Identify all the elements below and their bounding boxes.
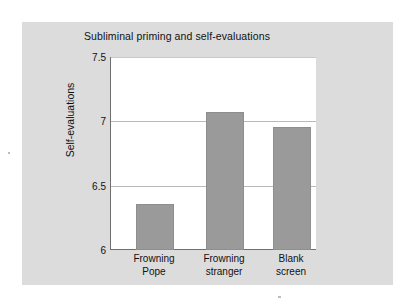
- y-tick-label: 6.5: [92, 180, 106, 191]
- chart-figure: Subliminal priming and self-evaluations …: [22, 22, 393, 285]
- chart-title: Subliminal priming and self-evaluations: [84, 30, 270, 42]
- bar-frowning-stranger: [206, 112, 244, 250]
- bar-blank-screen: [273, 127, 311, 250]
- y-tick-label: 6: [100, 245, 106, 256]
- x-tick-label-blank-screen: Blank screen: [251, 253, 331, 278]
- bar-frowning-pope: [136, 204, 174, 250]
- y-axis-tick-labels: 7.5 7 6.5 6: [70, 57, 106, 250]
- y-tick-label: 7: [100, 116, 106, 127]
- scan-artifact: [8, 152, 10, 154]
- plot-area: [110, 57, 316, 250]
- gridline-7-5: [111, 57, 316, 58]
- x-tick-label-frowning-pope: Frowning Pope: [114, 253, 194, 278]
- scan-artifact: [278, 296, 281, 298]
- y-tick-label: 7.5: [92, 52, 106, 63]
- x-axis-tick-labels: Frowning Pope Frowning stranger Blank sc…: [110, 253, 315, 287]
